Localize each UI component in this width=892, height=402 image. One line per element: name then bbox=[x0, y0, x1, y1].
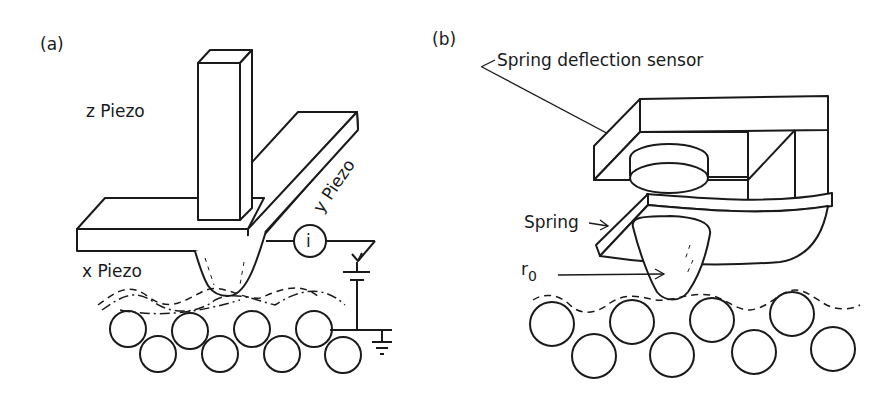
surface-atoms-a bbox=[110, 311, 361, 373]
panel-b: (b) Spring deflection sensor bbox=[432, 29, 860, 378]
tip-radius-label: r0 bbox=[521, 259, 537, 284]
panel-a-label: (a) bbox=[40, 34, 64, 54]
current-meter-label: i bbox=[306, 231, 311, 251]
z-piezo-column bbox=[198, 50, 252, 220]
x-piezo-label: x Piezo bbox=[82, 261, 142, 281]
surface-atoms-b bbox=[530, 292, 855, 378]
afm-tip bbox=[633, 216, 710, 300]
sensor-disk bbox=[630, 144, 708, 193]
panel-a: (a) bbox=[40, 34, 392, 373]
panel-b-label: (b) bbox=[432, 29, 456, 49]
spring-label: Spring bbox=[524, 212, 579, 232]
tunneling-circuit: i bbox=[266, 225, 392, 354]
sensor-label: Spring deflection sensor bbox=[497, 50, 703, 70]
sensor-housing bbox=[594, 96, 828, 205]
spring-cantilever bbox=[596, 193, 832, 264]
stm-afm-diagram: (a) bbox=[0, 0, 892, 402]
z-piezo-label: z Piezo bbox=[86, 101, 145, 121]
